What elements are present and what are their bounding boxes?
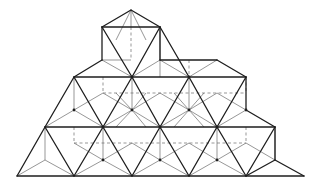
- joint-node: [102, 159, 105, 162]
- joint-node: [159, 159, 162, 162]
- heavy-edge: [74, 127, 103, 176]
- light-edge: [116, 110, 132, 127]
- joint-node: [245, 109, 248, 112]
- light-edge: [174, 93, 189, 110]
- joint-node: [188, 109, 191, 112]
- joint-node: [102, 126, 105, 129]
- heavy-edge: [132, 77, 160, 127]
- heavy-edge: [45, 77, 74, 127]
- light-edge: [189, 60, 217, 77]
- heavy-edge: [160, 127, 189, 176]
- heavy-edge: [103, 127, 132, 176]
- light-edge: [189, 110, 204, 127]
- light-edge: [132, 93, 146, 110]
- heavy-edge: [74, 77, 103, 127]
- heavy-edge: [160, 27, 189, 77]
- heavy-edge: [103, 77, 132, 127]
- octet-truss-diagram: [0, 0, 322, 189]
- light-edge: [132, 110, 146, 127]
- joint-node: [216, 126, 219, 129]
- light-edge: [189, 93, 204, 110]
- joint-node: [131, 76, 134, 79]
- heavy-edge: [160, 77, 189, 127]
- joint-node: [131, 109, 134, 112]
- heavy-edge: [74, 60, 102, 77]
- light-edge: [174, 110, 189, 127]
- heavy-edge: [217, 127, 246, 176]
- heavy-edge: [17, 127, 45, 176]
- heavy-edge: [217, 77, 246, 127]
- joint-node: [216, 159, 219, 162]
- joint-node: [188, 76, 191, 79]
- heavy-edge: [132, 27, 160, 77]
- heavy-edge: [217, 60, 246, 77]
- heavy-edge: [246, 110, 275, 127]
- joint-node: [159, 126, 162, 129]
- joint-node: [73, 109, 76, 112]
- heavy-edge: [189, 127, 217, 176]
- truss-svg: [0, 0, 322, 189]
- heavy-edge: [45, 127, 74, 176]
- heavy-edge: [275, 160, 304, 176]
- heavy-edge: [189, 77, 217, 127]
- heavy-edge: [132, 127, 160, 176]
- heavy-edge: [102, 27, 132, 77]
